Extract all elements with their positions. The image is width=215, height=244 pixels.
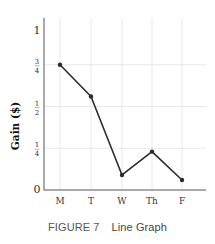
data-point-marker — [58, 63, 62, 67]
series-line — [60, 65, 182, 180]
x-tick-label: F — [179, 196, 185, 206]
data-point-marker — [150, 149, 154, 153]
y-tick-numerator: 1 — [35, 141, 39, 149]
y-tick-numerator: 1 — [35, 100, 39, 108]
y-tick-denominator: 4 — [35, 67, 40, 75]
x-tick-labels: MTWThF — [55, 196, 185, 206]
y-tick-label: 1 — [34, 24, 41, 37]
data-point-marker — [120, 173, 124, 177]
line-chart: 01412341 MTWThF Gain ($) — [0, 0, 215, 220]
y-tick-denominator: 4 — [35, 150, 40, 158]
y-tick-label: 0 — [34, 183, 41, 196]
figure-caption: FIGURE 7Line Graph — [0, 221, 215, 233]
figure-number: FIGURE 7 — [48, 221, 100, 233]
data-point-marker — [180, 178, 184, 182]
y-tick-numerator: 3 — [35, 58, 39, 66]
x-tick-label: M — [55, 196, 64, 206]
y-tick-labels: 01412341 — [34, 24, 41, 196]
grid — [44, 18, 206, 190]
x-tick-label: Th — [146, 196, 158, 206]
data-series — [58, 63, 184, 183]
x-tick-label: T — [88, 196, 94, 206]
data-point-marker — [89, 94, 93, 98]
y-tick-denominator: 2 — [35, 109, 39, 117]
x-tick-label: W — [117, 196, 127, 206]
y-axis-label: Gain ($) — [9, 102, 21, 150]
figure-title: Line Graph — [112, 221, 167, 233]
